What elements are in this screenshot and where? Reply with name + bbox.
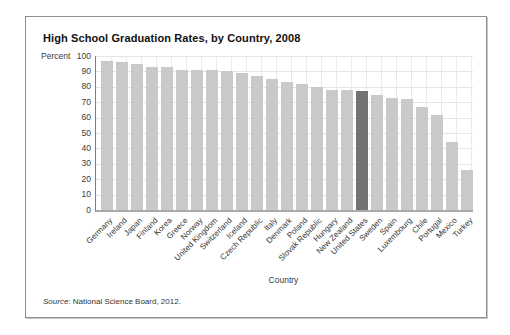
y-tick-label-40: 40 xyxy=(26,144,91,153)
bar-chile xyxy=(416,107,428,210)
bar-finland xyxy=(146,67,158,210)
bar-slovak-republic xyxy=(311,87,323,210)
bar-mexico xyxy=(446,142,458,210)
y-tick-label-90: 90 xyxy=(26,67,91,76)
bar-switzerland xyxy=(221,71,233,210)
source-note: Source: National Science Board, 2012. xyxy=(43,297,181,306)
bar-norway xyxy=(191,70,203,210)
bar-poland xyxy=(296,84,308,210)
bar-sweden xyxy=(371,95,383,211)
bar-korea xyxy=(161,67,173,210)
y-tick-label-70: 70 xyxy=(26,98,91,107)
y-tick-label-20: 20 xyxy=(26,175,91,184)
y-tick-label-50: 50 xyxy=(26,129,91,138)
y-axis-tick-labels: 0102030405060708090100 xyxy=(26,56,91,210)
y-tick-label-80: 80 xyxy=(26,82,91,91)
bar-new-zealand xyxy=(341,90,353,210)
bar-czech-republic xyxy=(251,76,263,210)
y-tick-label-100: 100 xyxy=(26,52,91,61)
bar-japan xyxy=(131,64,143,210)
bar-luxembourg xyxy=(401,99,413,210)
bar-spain xyxy=(386,98,398,210)
y-tick-label-10: 10 xyxy=(26,190,91,199)
plot-area xyxy=(95,56,473,212)
bar-iceland xyxy=(236,73,248,210)
bar-ireland xyxy=(116,62,128,210)
bar-denmark xyxy=(281,82,293,210)
bar-united-states xyxy=(356,91,368,210)
gridline-h-100 xyxy=(96,56,473,57)
bar-germany xyxy=(101,61,113,210)
chart-title: High School Graduation Rates, by Country… xyxy=(43,32,300,44)
bar-greece xyxy=(176,70,188,210)
y-tick-label-0: 0 xyxy=(26,206,91,215)
bar-portugal xyxy=(431,115,443,210)
bar-united-kingdom xyxy=(206,70,218,210)
y-tick-label-60: 60 xyxy=(26,113,91,122)
source-note-text: : National Science Board, 2012. xyxy=(68,297,181,306)
figure-frame: High School Graduation Rates, by Country… xyxy=(25,16,487,318)
y-tick-label-30: 30 xyxy=(26,159,91,168)
bar-hungary xyxy=(326,90,338,210)
bar-italy xyxy=(266,79,278,210)
x-axis-title: Country xyxy=(95,275,472,285)
bar-turkey xyxy=(461,170,473,210)
source-note-label: Source xyxy=(43,297,68,306)
x-axis-tick-labels: GermanyIrelandJapanFinlandKoreaGreeceNor… xyxy=(95,213,472,273)
